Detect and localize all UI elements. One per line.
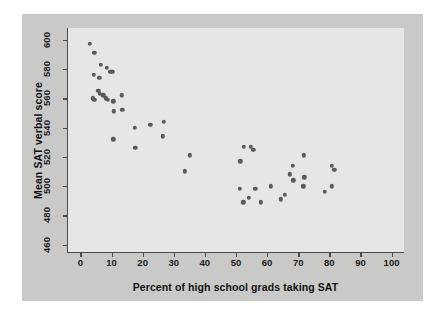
x-axis-tick-label: 30 (168, 258, 179, 268)
x-axis-tick-label: 10 (106, 258, 117, 268)
data-point (98, 62, 102, 66)
data-point (287, 172, 291, 176)
plot-area: 460480500520540560580600 010203040506070… (67, 28, 404, 253)
data-point (282, 193, 286, 197)
x-axis-title: Percent of high school grads taking SAT (67, 281, 404, 293)
data-point (110, 70, 114, 74)
data-point (269, 184, 273, 188)
data-point (301, 184, 305, 188)
data-point (106, 98, 110, 102)
y-axis-tick-label: 480 (42, 207, 68, 223)
scatter-plot-figure: Mean SAT verbal score 460480500520540560… (0, 0, 442, 318)
data-point (111, 99, 115, 103)
data-point (119, 93, 123, 97)
y-axis-tick-label: 500 (42, 178, 68, 194)
data-point (332, 168, 336, 172)
y-axis-tick-label: 540 (42, 120, 68, 136)
data-point (253, 187, 257, 191)
data-point (92, 51, 96, 55)
data-point (330, 184, 334, 188)
data-point (238, 159, 242, 163)
y-axis-tick-label: 460 (42, 237, 68, 253)
data-point (323, 190, 327, 194)
data-point (183, 169, 187, 173)
data-point (242, 144, 246, 148)
data-point (133, 146, 137, 150)
y-axis-tick-label: 580 (42, 61, 68, 77)
y-axis-tick-label: 520 (42, 149, 68, 165)
data-point (302, 175, 306, 179)
x-axis-tick-label: 50 (231, 258, 242, 268)
x-axis-tick-label: 0 (78, 258, 83, 268)
y-axis-tick-label: 560 (42, 90, 68, 106)
x-axis-tick-label: 70 (293, 258, 304, 268)
data-point (112, 109, 116, 113)
data-point (92, 98, 96, 102)
data-point (91, 73, 95, 77)
data-point (188, 153, 192, 157)
data-points-layer (68, 28, 404, 252)
data-point (279, 197, 283, 201)
x-axis-tick-label: 80 (324, 258, 335, 268)
x-axis-tick-label: 40 (200, 258, 211, 268)
data-point (247, 196, 251, 200)
y-axis-tick-label: 600 (42, 32, 68, 48)
x-axis-tick-label: 60 (262, 258, 273, 268)
data-point (259, 200, 263, 204)
data-point (97, 76, 101, 80)
data-point (241, 200, 245, 204)
data-point (291, 178, 295, 182)
data-point (111, 137, 115, 141)
x-axis-tick-label: 20 (137, 258, 148, 268)
data-point (290, 163, 294, 167)
x-axis-tick-label: 90 (355, 258, 366, 268)
data-point (132, 125, 136, 129)
data-point (238, 187, 242, 191)
data-point (88, 42, 92, 46)
data-point (251, 147, 255, 151)
x-axis-tick-label: 100 (384, 258, 400, 268)
data-point (120, 108, 124, 112)
data-point (302, 153, 306, 157)
data-point (162, 119, 166, 123)
data-point (148, 122, 152, 126)
data-point (160, 134, 164, 138)
